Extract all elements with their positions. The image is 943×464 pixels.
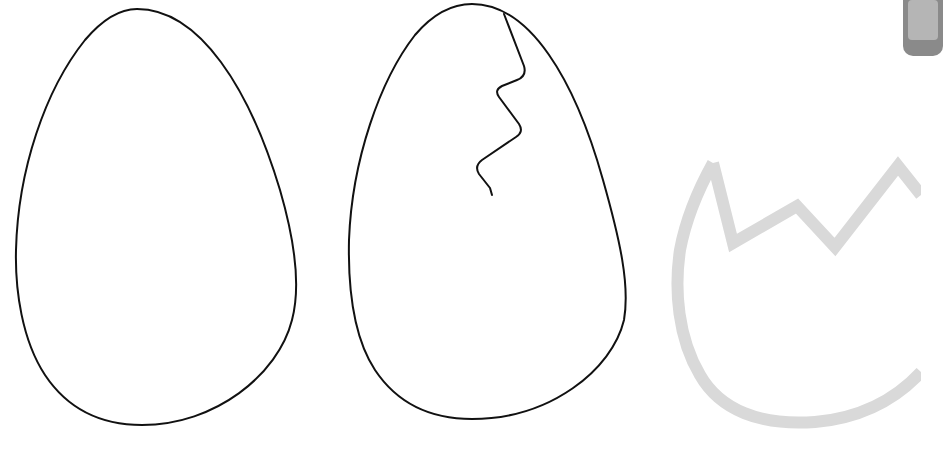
plain-egg-outline	[16, 9, 296, 425]
cracked-egg-outline	[349, 4, 626, 419]
egg-crack-line	[477, 14, 525, 195]
corner-tab[interactable]	[903, 0, 943, 56]
broken-eggshell-outline	[677, 163, 921, 423]
corner-tab-inner	[908, 0, 938, 40]
